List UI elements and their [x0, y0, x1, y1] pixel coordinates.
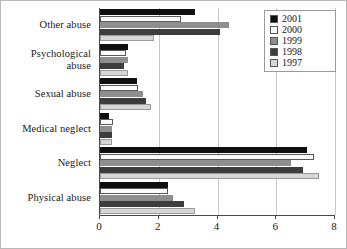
bar: [100, 119, 113, 125]
y-axis-label: Neglect: [0, 157, 91, 169]
bar-group-inner: [100, 78, 335, 110]
bar-row: [100, 119, 335, 125]
bar: [100, 50, 126, 56]
bar-row: [100, 195, 335, 201]
legend-swatch-icon: [270, 59, 278, 67]
bar: [100, 22, 229, 28]
bar: [100, 147, 307, 153]
bar-group-inner: [100, 113, 335, 145]
bar: [100, 173, 319, 179]
y-axis-label: Sexual abuse: [0, 88, 91, 100]
bar-row: [100, 147, 335, 153]
legend-label: 1998: [282, 47, 302, 57]
bar: [100, 132, 112, 138]
bar-row: [100, 167, 335, 173]
bar-row: [100, 173, 335, 179]
bar-row: [100, 91, 335, 97]
y-axis-label: Other abuse: [0, 19, 91, 31]
bar-row: [100, 126, 335, 132]
legend-label: 1999: [282, 36, 302, 46]
bar: [100, 126, 112, 132]
bar: [100, 44, 128, 50]
bar-row: [100, 182, 335, 188]
x-tick-mark-6: [275, 215, 276, 219]
bar-group-inner: [100, 182, 335, 214]
bar: [100, 78, 137, 84]
bar: [100, 188, 168, 194]
bar-row: [100, 98, 335, 104]
bar-group: [100, 77, 335, 112]
bar: [100, 57, 128, 63]
legend-swatch-icon: [270, 48, 278, 56]
bar: [100, 35, 154, 41]
bar: [100, 70, 128, 76]
bar: [100, 9, 195, 15]
bar: [100, 91, 143, 97]
x-tick-label-2: 2: [155, 220, 161, 232]
bar-row: [100, 188, 335, 194]
bar: [100, 113, 109, 119]
bar-group-inner: [100, 147, 335, 179]
bar: [100, 167, 303, 173]
bar: [100, 201, 184, 207]
bar-row: [100, 85, 335, 91]
bar: [100, 154, 314, 160]
bar: [100, 98, 146, 104]
legend-label: 2000: [282, 25, 302, 35]
legend-item-1998[interactable]: 1998: [270, 47, 332, 57]
bar: [100, 182, 168, 188]
bar: [100, 16, 181, 22]
bar: [100, 208, 195, 214]
x-tick-mark-0: [99, 215, 100, 219]
bar-row: [100, 104, 335, 110]
y-axis-label: Psychological abuse: [0, 48, 91, 72]
bar-row: [100, 113, 335, 119]
bar-row: [100, 78, 335, 84]
x-tick-label-6: 6: [273, 220, 279, 232]
bar-row: [100, 201, 335, 207]
legend-item-2001[interactable]: 2001: [270, 14, 332, 24]
bar: [100, 139, 112, 145]
y-axis-label: Physical abuse: [0, 192, 91, 204]
bar-row: [100, 154, 335, 160]
legend-item-1997[interactable]: 1997: [270, 58, 332, 68]
x-tick-label-0: 0: [96, 220, 102, 232]
bar-row: [100, 139, 335, 145]
y-axis-label: Medical neglect: [0, 123, 91, 135]
bar-row: [100, 208, 335, 214]
bar-group: [100, 112, 335, 147]
bar: [100, 195, 173, 201]
legend-swatch-icon: [270, 26, 278, 34]
bar-row: [100, 132, 335, 138]
x-tick-label-4: 4: [214, 220, 220, 232]
legend-item-1999[interactable]: 1999: [270, 36, 332, 46]
legend: 20012000199919981997: [264, 10, 336, 72]
legend-label: 1997: [282, 58, 302, 68]
x-tick-mark-2: [158, 215, 159, 219]
bar-row: [100, 160, 335, 166]
bar-group: [100, 146, 335, 181]
legend-swatch-icon: [270, 15, 278, 23]
bar: [100, 160, 291, 166]
legend-swatch-icon: [270, 37, 278, 45]
bar: [100, 63, 124, 69]
bar: [100, 85, 138, 91]
bar: [100, 29, 220, 35]
legend-label: 2001: [282, 14, 302, 24]
x-tick-mark-4: [217, 215, 218, 219]
legend-item-2000[interactable]: 2000: [270, 25, 332, 35]
bar-group: [100, 181, 335, 216]
bar: [100, 104, 151, 110]
x-tick-mark-8: [334, 215, 335, 219]
x-tick-label-8: 8: [331, 220, 337, 232]
bar-chart: 02468 20012000199919981997 Other abusePs…: [0, 0, 347, 249]
